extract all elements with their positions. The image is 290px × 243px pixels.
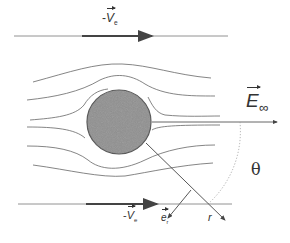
unit-vector-label: er xyxy=(161,212,168,225)
diagram-canvas: -Ve E∞ θ -Ve er r xyxy=(0,0,290,243)
radius-arrow xyxy=(146,143,225,220)
bottom-velocity-label: -Ve xyxy=(123,209,137,223)
sphere xyxy=(87,90,151,154)
diagram-svg xyxy=(0,0,290,243)
top-velocity-label: -Ve xyxy=(102,11,118,26)
radius-label: r xyxy=(208,211,212,223)
angle-label: θ xyxy=(251,160,261,179)
field-label: E∞ xyxy=(246,90,268,115)
